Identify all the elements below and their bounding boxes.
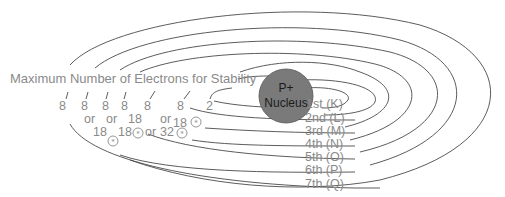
shell-label-7: 7th (Q)	[305, 177, 344, 191]
shell-label-2: 2nd (L)	[305, 111, 345, 125]
tick-4	[124, 92, 126, 99]
shell-label-6: 6th (P)	[305, 163, 343, 177]
count-4a: 8	[121, 99, 128, 113]
tick-7	[66, 92, 68, 99]
asterisk-circle-icon: *	[177, 128, 187, 138]
svg-text:*: *	[111, 138, 115, 146]
nucleus-line1: P+	[278, 81, 293, 95]
count-3a: 8	[144, 99, 151, 113]
count-3b: 32	[160, 125, 174, 139]
shell-labels: 1st (K) 2nd (L) 3rd (M) 4th (N) 5th (O) …	[305, 97, 345, 191]
count-5or: or	[106, 112, 117, 126]
tick-5	[106, 92, 108, 99]
asterisk-circle-icon: *	[133, 128, 143, 138]
shell-label-1: 1st (K)	[306, 97, 343, 111]
svg-text:*: *	[136, 130, 140, 138]
count-4b: 18	[128, 112, 142, 126]
count-6a: 8	[81, 99, 88, 113]
shell-label-3: 3rd (M)	[305, 124, 345, 138]
count-5a: 8	[102, 99, 109, 113]
count-2b: 18	[173, 116, 187, 130]
diagram-title: Maximum Number of Electrons for Stabilit…	[10, 71, 257, 86]
electron-shell-diagram: P+ Nucleus Maximum Number of Electrons f…	[0, 0, 505, 197]
count-6or: or	[84, 112, 95, 126]
tick-1	[210, 88, 232, 99]
asterisk-circle-icon: *	[108, 136, 118, 146]
asterisk-circle-icon: *	[191, 117, 201, 127]
count-5b: 18	[118, 125, 132, 139]
tick-3	[150, 91, 155, 99]
count-2a: 8	[177, 99, 184, 113]
svg-text:*: *	[180, 130, 184, 138]
tick-6	[86, 92, 88, 99]
count-3or: or	[160, 112, 171, 126]
svg-text:*: *	[194, 119, 198, 127]
shell-label-5: 5th (O)	[305, 150, 344, 164]
count-4or: or	[145, 125, 156, 139]
count-7: 8	[59, 99, 66, 113]
count-1: 2	[206, 99, 213, 113]
count-6b: 18	[93, 125, 107, 139]
shell-label-4: 4th (N)	[305, 137, 343, 151]
nucleus-line2: Nucleus	[264, 96, 307, 110]
tick-2	[184, 91, 190, 99]
